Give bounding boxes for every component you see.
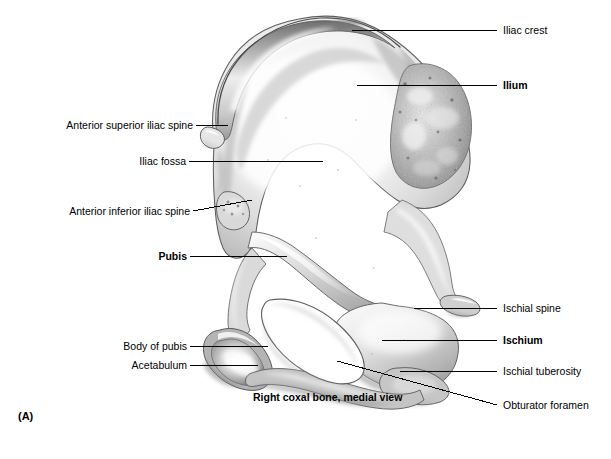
label-ilium: Ilium [503, 79, 528, 91]
figure-caption: Right coxal bone, medial view [253, 391, 402, 403]
anatomical-figure: Anterior superior iliac spine Iliac foss… [0, 0, 611, 459]
label-ischium: Ischium [503, 334, 543, 346]
label-acetabulum: Acetabulum [0, 359, 187, 371]
label-ischial-tuberosity: Ischial tuberosity [503, 365, 581, 377]
panel-letter: (A) [18, 410, 33, 422]
label-obturator-foramen: Obturator foramen [503, 399, 589, 411]
label-ischial-spine: Ischial spine [503, 302, 561, 314]
label-iliac-fossa: Iliac fossa [0, 155, 186, 167]
label-anterior-inferior-iliac-spine: Anterior inferior iliac spine [0, 205, 190, 217]
label-anterior-superior-iliac-spine: Anterior superior iliac spine [0, 119, 193, 131]
label-pubis: Pubis [0, 250, 187, 262]
label-body-of-pubis: Body of pubis [0, 340, 187, 352]
label-iliac-crest: Iliac crest [503, 24, 547, 36]
